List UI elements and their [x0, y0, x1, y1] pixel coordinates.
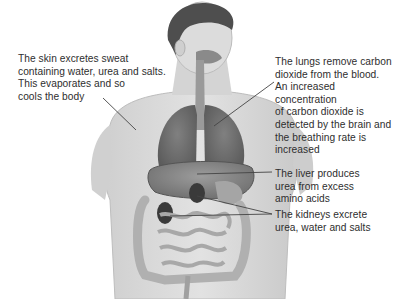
skin-label: The skin excretes sweat containing water…	[18, 53, 193, 103]
right-kidney	[189, 183, 205, 203]
excretion-diagram: The skin excretes sweat containing water…	[0, 0, 398, 299]
lungs-label: The lungs remove carbon dioxide from the…	[275, 56, 398, 157]
liver-label: The liver produces urea from excess amin…	[275, 168, 395, 206]
kidneys-label: The kidneys excrete urea, water and salt…	[275, 209, 395, 234]
